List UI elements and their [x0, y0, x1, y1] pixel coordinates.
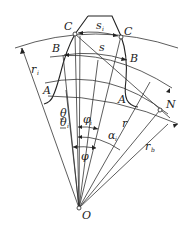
label-r: r	[122, 117, 128, 130]
label-alpha-i-sub: i	[115, 135, 117, 142]
arc-ri	[15, 34, 178, 48]
label-r-i-sub: i	[37, 69, 39, 76]
labels: C C s i s B B A A r i θ θ i φ i α i φ r …	[31, 19, 176, 222]
point-C-right	[119, 35, 123, 39]
gear-tooth-diagram: C C s i s B B A A r i θ θ i φ i α i φ r …	[0, 0, 192, 228]
label-phi-i-sub: i	[90, 119, 92, 126]
label-s-i-sub: i	[102, 25, 104, 32]
label-r-b-sub: b	[151, 146, 155, 153]
label-A-left: A	[42, 84, 51, 97]
arc-through-B	[50, 55, 172, 88]
point-N	[158, 108, 162, 112]
label-s: s	[99, 41, 105, 54]
label-O: O	[82, 209, 91, 222]
label-theta-i: θ	[60, 116, 67, 129]
label-N: N	[165, 98, 176, 111]
label-theta-i-sub: i	[67, 122, 69, 129]
point-O	[77, 206, 81, 210]
circle-arcs	[15, 34, 178, 124]
label-B-right: B	[129, 52, 138, 65]
label-C-left: C	[64, 20, 73, 33]
radial-lines	[22, 34, 170, 208]
label-B-left: B	[51, 42, 60, 55]
label-phi: φ	[81, 150, 89, 163]
label-A-right: A	[117, 93, 126, 106]
label-C-right: C	[124, 25, 133, 38]
point-C-left	[73, 32, 77, 36]
